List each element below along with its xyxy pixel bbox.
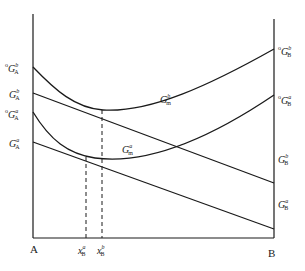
curve-gbm <box>33 49 274 110</box>
label-GbB: GbB <box>278 153 288 166</box>
label-oGbA: oGbA <box>5 62 19 75</box>
label-GbA: GbA <box>9 88 20 101</box>
label-B: B <box>268 247 275 259</box>
label-oGaB: oGaB <box>278 94 291 107</box>
label-oGbB: oGbB <box>278 45 291 58</box>
label-GaB: GaB <box>278 198 288 211</box>
label-xaB: xaB <box>78 244 85 257</box>
label-Gam: Gam <box>122 143 133 156</box>
curve-gam <box>33 95 274 159</box>
label-A: A <box>30 243 38 255</box>
label-oGaA: oGaA <box>5 108 19 121</box>
label-Gbm: Gbm <box>160 93 171 106</box>
tangent-line-b <box>33 93 274 183</box>
label-xbB: xbB <box>97 244 104 257</box>
label-GaA: GaA <box>9 137 20 150</box>
tangent-line-a <box>33 142 274 229</box>
gibbs-diagram <box>0 0 305 271</box>
